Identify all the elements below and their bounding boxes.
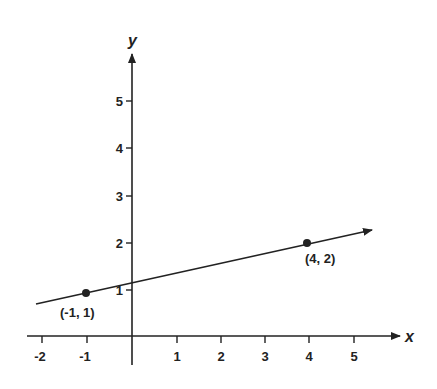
x-tick-label: 4 xyxy=(305,349,313,364)
y-tick-label: 2 xyxy=(116,236,123,251)
point-a-marker xyxy=(82,289,90,297)
y-axis-label: y xyxy=(127,32,138,49)
y-tick-labels: 1 2 3 4 5 xyxy=(116,94,124,298)
coordinate-plane: x y -2 -1 1 2 3 4 5 1 2 3 4 5 (-1, xyxy=(0,0,437,389)
y-tick-label: 3 xyxy=(116,189,123,204)
x-tick-labels: -2 -1 1 2 3 4 5 xyxy=(34,349,357,364)
x-tick-label: 3 xyxy=(261,349,268,364)
point-b-label: (4, 2) xyxy=(305,251,335,266)
x-axis-label: x xyxy=(404,328,415,345)
x-tick-label: 5 xyxy=(350,349,357,364)
x-tick-label: 1 xyxy=(173,349,180,364)
x-tick-label: -2 xyxy=(34,349,46,364)
x-tick-label: 2 xyxy=(217,349,224,364)
y-tick-label: 5 xyxy=(116,94,123,109)
y-ticks xyxy=(126,101,132,290)
x-ticks xyxy=(42,336,354,343)
point-a-label: (-1, 1) xyxy=(60,305,95,320)
point-b-marker xyxy=(303,239,311,247)
y-tick-label: 4 xyxy=(116,141,124,156)
x-tick-label: -1 xyxy=(79,349,91,364)
